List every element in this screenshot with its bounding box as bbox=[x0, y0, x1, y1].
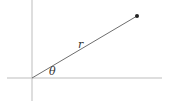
point bbox=[135, 14, 139, 18]
radius-label: r bbox=[78, 38, 84, 51]
polar-diagram: r θ bbox=[0, 0, 171, 104]
radius-line bbox=[32, 16, 137, 78]
angle-label: θ bbox=[49, 65, 56, 78]
